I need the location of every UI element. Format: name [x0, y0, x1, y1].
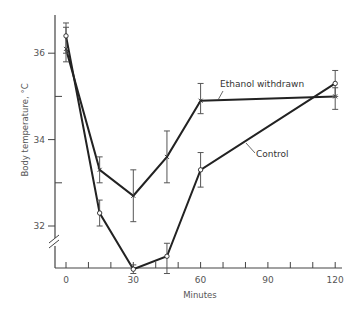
x-tick-label: 30	[128, 275, 140, 285]
circle-marker	[165, 254, 169, 258]
x-tick-label: 60	[195, 275, 207, 285]
label-leader-line	[246, 143, 255, 153]
series-group	[63, 23, 338, 274]
annotations: Ethanol withdrawnControl	[218, 79, 304, 159]
x-tick-label: 90	[262, 275, 274, 285]
label-ethanol-withdrawn: Ethanol withdrawn	[220, 79, 304, 89]
y-axis-title: Body temperature, °C	[20, 83, 30, 176]
circle-marker	[333, 81, 337, 85]
circle-marker	[131, 267, 135, 271]
y-tick-label: 34	[34, 135, 46, 145]
x-tick-label: 0	[63, 275, 69, 285]
y-tick-label: 36	[34, 48, 46, 58]
circle-marker	[64, 34, 68, 38]
series-control	[63, 23, 338, 274]
x-tick-label: 120	[327, 275, 344, 285]
y-tick-label: 32	[34, 221, 45, 231]
series-ethanol-withdrawn	[63, 27, 338, 221]
circle-marker	[198, 168, 202, 172]
body-temperature-chart: 3234360306090120MinutesBody temperature,…	[0, 0, 358, 314]
circle-marker	[97, 211, 101, 215]
label-leader-line	[218, 91, 223, 100]
x-axis-title: Minutes	[183, 290, 217, 300]
label-control: Control	[256, 149, 289, 159]
